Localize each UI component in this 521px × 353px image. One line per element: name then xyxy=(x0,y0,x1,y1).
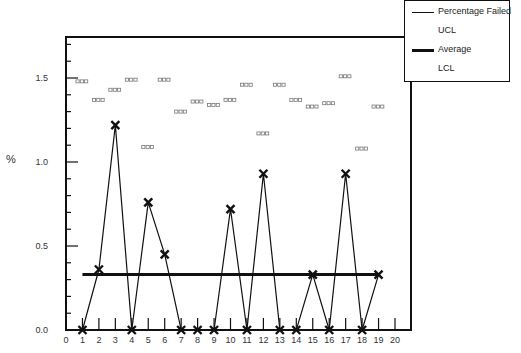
ucl-marker-icon xyxy=(163,78,166,81)
x-tick-label: 12 xyxy=(258,335,268,345)
legend-label: LCL xyxy=(438,63,455,73)
legend-label: Percentage Failed xyxy=(438,6,511,16)
legend-item-percentage-failed: Percentage Failed xyxy=(405,4,509,20)
legend-item-lcl: LCL xyxy=(405,61,509,77)
x-tick-label: 4 xyxy=(129,335,134,345)
x-tick-label: 11 xyxy=(242,335,251,345)
ucl-marker-icon xyxy=(101,98,104,101)
ucl-marker-icon xyxy=(364,147,367,150)
ucl-marker-icon xyxy=(360,147,363,150)
legend-label: UCL xyxy=(438,25,456,35)
ucl-marker-icon xyxy=(257,132,260,135)
x-tick-label: 7 xyxy=(179,335,184,345)
ucl-marker-icon xyxy=(142,145,145,148)
ucl-marker-icon xyxy=(356,147,359,150)
ucl-marker-icon xyxy=(273,83,276,86)
ucl-marker-icon xyxy=(125,78,128,81)
x-tick-label: 1 xyxy=(80,335,85,345)
ucl-marker-icon xyxy=(130,78,133,81)
x-tick-label: 13 xyxy=(275,335,285,345)
ucl-marker-icon xyxy=(381,105,384,108)
ucl-marker-icon xyxy=(294,98,297,101)
x-tick-label: 10 xyxy=(225,335,235,345)
ucl-marker-icon xyxy=(158,78,161,81)
ucl-marker-icon xyxy=(376,105,379,108)
ucl-marker-icon xyxy=(80,80,83,83)
x-tick-label: 9 xyxy=(212,335,217,345)
ucl-marker-icon xyxy=(113,88,116,91)
ucl-marker-icon xyxy=(339,75,342,78)
ucl-marker-icon xyxy=(323,102,326,105)
thick-line-swatch-icon xyxy=(412,49,434,52)
x-tick-label: 19 xyxy=(374,335,384,345)
ucl-marker-icon xyxy=(200,100,203,103)
legend-item-average: Average xyxy=(405,42,509,58)
percentage-failed-line xyxy=(82,125,378,330)
ucl-marker-icon xyxy=(245,83,248,86)
ucl-marker-icon xyxy=(327,102,330,105)
ucl-marker-icon xyxy=(315,105,318,108)
x-tick-label: 2 xyxy=(96,335,101,345)
ucl-marker-icon xyxy=(167,78,170,81)
ucl-marker-icon xyxy=(183,110,186,113)
x-tick-label: 20 xyxy=(390,335,400,345)
x-tick-label: 14 xyxy=(291,335,301,345)
x-tick-label: 18 xyxy=(357,335,367,345)
ucl-marker-icon xyxy=(233,98,236,101)
ucl-marker-icon xyxy=(179,110,182,113)
ucl-marker-icon xyxy=(228,98,231,101)
plot-frame xyxy=(66,37,411,330)
ucl-marker-icon xyxy=(109,88,112,91)
y-tick-label: 0.5 xyxy=(35,241,48,251)
ucl-marker-icon xyxy=(175,110,178,113)
ucl-marker-icon xyxy=(249,83,252,86)
ucl-marker-icon xyxy=(240,83,243,86)
y-tick-label: 0.0 xyxy=(35,325,48,335)
ucl-marker-icon xyxy=(266,132,269,135)
ucl-marker-icon xyxy=(348,75,351,78)
ucl-marker-icon xyxy=(298,98,301,101)
ucl-marker-icon xyxy=(150,145,153,148)
ucl-marker-icon xyxy=(134,78,137,81)
ucl-marker-icon xyxy=(224,98,227,101)
ucl-marker-icon xyxy=(146,145,149,148)
x-tick-label: 5 xyxy=(146,335,151,345)
ucl-marker-icon xyxy=(195,100,198,103)
ucl-marker-icon xyxy=(331,102,334,105)
ucl-marker-icon xyxy=(92,98,95,101)
ucl-marker-icon xyxy=(216,103,219,106)
x-tick-label: 3 xyxy=(113,335,118,345)
ucl-marker-icon xyxy=(290,98,293,101)
x-tick-label: 8 xyxy=(195,335,200,345)
ucl-marker-icon xyxy=(343,75,346,78)
ucl-series xyxy=(76,75,384,150)
x-tick-label: 16 xyxy=(324,335,334,345)
y-axis: 0.00.51.01.5 xyxy=(35,44,78,335)
percentage-failed-series xyxy=(78,121,382,334)
x-tick-label: 0 xyxy=(63,335,68,345)
ucl-marker-icon xyxy=(97,98,100,101)
ucl-marker-icon xyxy=(278,83,281,86)
legend-label: Average xyxy=(438,44,471,54)
thin-line-swatch-icon xyxy=(412,12,434,13)
y-tick-label: 1.5 xyxy=(35,73,48,83)
ucl-marker-icon xyxy=(261,132,264,135)
ucl-marker-icon xyxy=(311,105,314,108)
x-tick-label: 15 xyxy=(308,335,318,345)
ucl-marker-icon xyxy=(117,88,120,91)
legend-item-ucl: UCL xyxy=(405,23,509,39)
ucl-marker-icon xyxy=(85,80,88,83)
legend: Percentage Failed UCL Average LCL xyxy=(404,0,510,82)
ucl-marker-icon xyxy=(76,80,79,83)
x-tick-label: 6 xyxy=(162,335,167,345)
ucl-marker-icon xyxy=(212,103,215,106)
x-axis: 01234567891011121314151617181920 xyxy=(63,318,400,345)
plot-border xyxy=(66,37,411,330)
ucl-marker-icon xyxy=(306,105,309,108)
ucl-marker-icon xyxy=(282,83,285,86)
ucl-marker-icon xyxy=(191,100,194,103)
x-tick-label: 17 xyxy=(341,335,351,345)
ucl-marker-icon xyxy=(208,103,211,106)
y-axis-label: % xyxy=(6,153,16,165)
y-tick-label: 1.0 xyxy=(35,157,48,167)
